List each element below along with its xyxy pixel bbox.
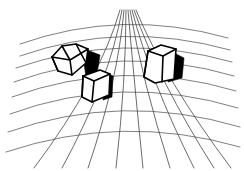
right-box-internal-edge-2 [162,56,163,82]
canvas-background [0,0,244,171]
center-box-internal-edge-3 [82,76,83,97]
perspective-grid-illustration [0,0,244,171]
center-box-group [82,70,113,102]
illustration-root [0,0,244,171]
